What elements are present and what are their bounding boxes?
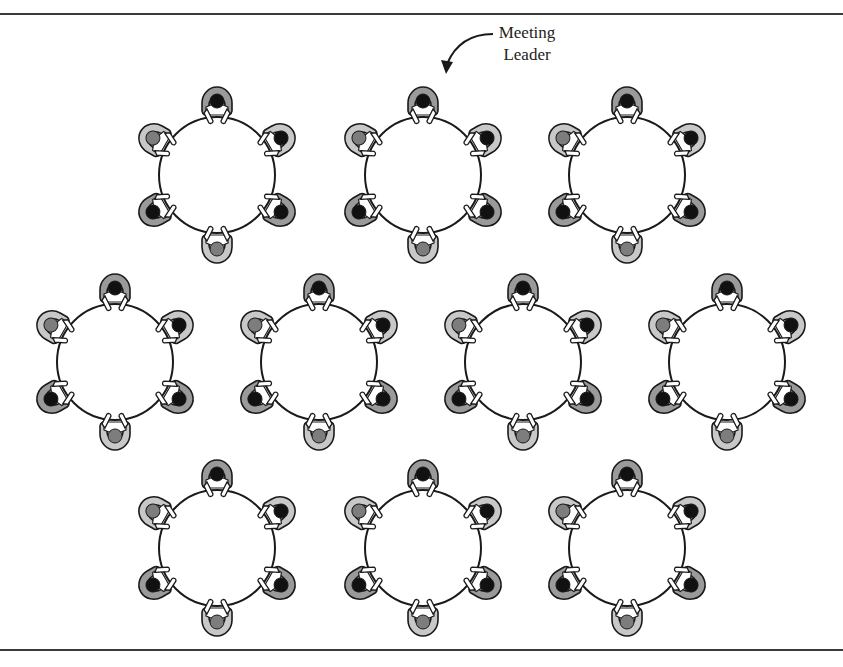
round-table <box>569 117 685 233</box>
table-group <box>133 87 300 263</box>
table-group <box>439 274 606 450</box>
table-group <box>543 460 710 636</box>
round-table <box>365 117 481 233</box>
round-table <box>569 490 685 606</box>
tables-layer <box>31 87 810 636</box>
table-group <box>235 274 402 450</box>
round-table <box>159 117 275 233</box>
table-group <box>133 460 300 636</box>
round-table <box>159 490 275 606</box>
table-group <box>643 274 810 450</box>
round-table <box>57 304 173 420</box>
arrow-icon <box>447 34 493 64</box>
table-group <box>31 274 198 450</box>
table-group <box>543 87 710 263</box>
table-group <box>339 87 506 263</box>
arrowhead-icon <box>441 60 453 74</box>
annotation-label-meeting: Meeting <box>492 22 562 43</box>
annotation-label-leader: Leader <box>492 44 562 65</box>
round-table <box>365 490 481 606</box>
round-table <box>669 304 785 420</box>
meeting-leader-annotation <box>441 34 493 74</box>
round-table <box>465 304 581 420</box>
table-group <box>339 460 506 636</box>
round-table <box>261 304 377 420</box>
seating-diagram <box>0 0 843 667</box>
